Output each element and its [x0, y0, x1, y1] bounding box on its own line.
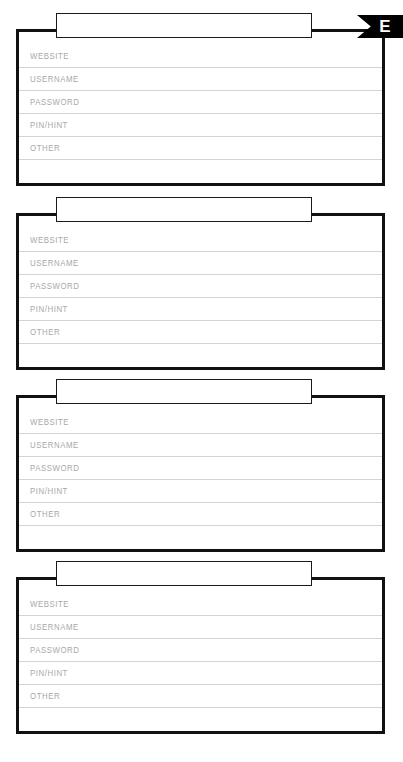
field-row-group: WEBSITEUSERNAMEPASSWORDPIN/HINTOTHER	[19, 216, 382, 367]
field-label: PASSWORD	[19, 281, 80, 291]
field-row-other[interactable]: OTHER	[19, 503, 382, 526]
card-title-text	[57, 198, 311, 221]
field-label: OTHER	[19, 327, 60, 337]
field-row-username[interactable]: USERNAME	[19, 434, 382, 457]
field-label: OTHER	[19, 691, 60, 701]
field-row-website[interactable]: WEBSITE	[19, 593, 382, 616]
field-label: USERNAME	[19, 258, 79, 268]
field-label: USERNAME	[19, 622, 79, 632]
password-log-page: E WEBSITEUSERNAMEPASSWORDPIN/HINTOTHERWE…	[0, 0, 403, 762]
field-row-password[interactable]: PASSWORD	[19, 457, 382, 480]
field-row-website[interactable]: WEBSITE	[19, 411, 382, 434]
field-row-username[interactable]: USERNAME	[19, 252, 382, 275]
field-label: PASSWORD	[19, 463, 80, 473]
field-label: PIN/HINT	[19, 120, 68, 130]
card-title-input[interactable]	[56, 561, 312, 586]
field-row-other[interactable]: OTHER	[19, 321, 382, 344]
card-title-text	[57, 14, 311, 37]
entry-card: WEBSITEUSERNAMEPASSWORDPIN/HINTOTHER	[16, 29, 385, 186]
field-row-other[interactable]: OTHER	[19, 137, 382, 160]
card-title-input[interactable]	[56, 13, 312, 38]
field-label: PASSWORD	[19, 97, 80, 107]
field-label: WEBSITE	[19, 599, 69, 609]
field-row-password[interactable]: PASSWORD	[19, 91, 382, 114]
field-row-other[interactable]: OTHER	[19, 685, 382, 708]
field-row-blank[interactable]	[19, 344, 382, 367]
field-row-pin-hint[interactable]: PIN/HINT	[19, 298, 382, 321]
field-label: WEBSITE	[19, 51, 69, 61]
field-label: USERNAME	[19, 440, 79, 450]
field-label: USERNAME	[19, 74, 79, 84]
field-row-pin-hint[interactable]: PIN/HINT	[19, 662, 382, 685]
field-row-blank[interactable]	[19, 160, 382, 183]
field-row-username[interactable]: USERNAME	[19, 616, 382, 639]
field-row-pin-hint[interactable]: PIN/HINT	[19, 114, 382, 137]
field-row-username[interactable]: USERNAME	[19, 68, 382, 91]
field-label: PIN/HINT	[19, 668, 68, 678]
field-row-blank[interactable]	[19, 708, 382, 731]
field-row-group: WEBSITEUSERNAMEPASSWORDPIN/HINTOTHER	[19, 32, 382, 183]
field-row-password[interactable]: PASSWORD	[19, 275, 382, 298]
card-title-input[interactable]	[56, 379, 312, 404]
field-label: OTHER	[19, 509, 60, 519]
field-label: PASSWORD	[19, 645, 80, 655]
index-tab-letter: E	[379, 18, 390, 35]
field-label: WEBSITE	[19, 235, 69, 245]
field-row-group: WEBSITEUSERNAMEPASSWORDPIN/HINTOTHER	[19, 580, 382, 731]
entry-card: WEBSITEUSERNAMEPASSWORDPIN/HINTOTHER	[16, 577, 385, 734]
field-row-website[interactable]: WEBSITE	[19, 229, 382, 252]
field-row-blank[interactable]	[19, 526, 382, 549]
entry-card: WEBSITEUSERNAMEPASSWORDPIN/HINTOTHER	[16, 213, 385, 370]
field-label: PIN/HINT	[19, 304, 68, 314]
card-title-text	[57, 380, 311, 403]
card-title-text	[57, 562, 311, 585]
field-label: PIN/HINT	[19, 486, 68, 496]
field-row-website[interactable]: WEBSITE	[19, 45, 382, 68]
field-row-password[interactable]: PASSWORD	[19, 639, 382, 662]
index-tab-e[interactable]: E	[357, 15, 403, 38]
entry-card: WEBSITEUSERNAMEPASSWORDPIN/HINTOTHER	[16, 395, 385, 552]
field-row-group: WEBSITEUSERNAMEPASSWORDPIN/HINTOTHER	[19, 398, 382, 549]
field-row-pin-hint[interactable]: PIN/HINT	[19, 480, 382, 503]
field-label: OTHER	[19, 143, 60, 153]
field-label: WEBSITE	[19, 417, 69, 427]
card-title-input[interactable]	[56, 197, 312, 222]
